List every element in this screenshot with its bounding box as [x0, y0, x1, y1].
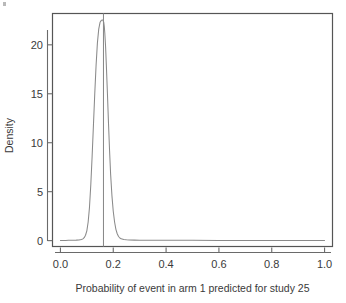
- density-plot-svg: 05101520 0.00.20.40.60.81.0 Probability …: [0, 0, 346, 303]
- y-axis: 05101520: [31, 30, 53, 247]
- x-axis-title: Probability of event in arm 1 predicted …: [75, 282, 309, 294]
- x-tick-labels: 0.00.20.40.60.81.0: [53, 258, 332, 270]
- y-tick-label: 20: [31, 39, 43, 51]
- x-tick-label: 0.2: [106, 258, 121, 270]
- y-tick-label: 0: [37, 235, 43, 247]
- y-axis-title: Density: [3, 117, 15, 153]
- density-curve-line: [60, 20, 324, 241]
- x-tick-marks: [60, 248, 324, 253]
- x-tick-label: 0.6: [211, 258, 226, 270]
- y-tick-labels: 05101520: [31, 39, 43, 247]
- x-tick-label: 0.0: [53, 258, 68, 270]
- x-tick-label: 1.0: [317, 258, 332, 270]
- y-tick-label: 5: [37, 186, 43, 198]
- x-tick-label: 0.4: [158, 258, 173, 270]
- density-plot-figure: 05101520 0.00.20.40.60.81.0 Probability …: [0, 0, 346, 303]
- x-tick-label: 0.8: [264, 258, 279, 270]
- x-axis: 0.00.20.40.60.81.0: [53, 248, 332, 271]
- y-tick-marks: [48, 45, 53, 241]
- plot-frame: [53, 14, 333, 247]
- y-tick-label: 10: [31, 137, 43, 149]
- y-tick-label: 15: [31, 88, 43, 100]
- screenshot-root: 05101520 0.00.20.40.60.81.0 Probability …: [0, 0, 346, 303]
